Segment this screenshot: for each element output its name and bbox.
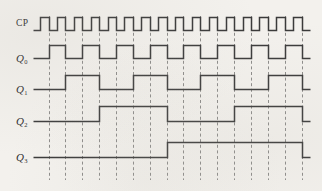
signal-label-text: Q bbox=[16, 151, 24, 163]
signal-label-q2: Q2 bbox=[16, 116, 27, 127]
signal-label-subscript: 1 bbox=[24, 89, 27, 96]
waveform-cp bbox=[34, 18, 311, 31]
gridline-group bbox=[50, 16, 303, 180]
signal-label-q3: Q3 bbox=[16, 152, 27, 163]
signal-label-subscript: 0 bbox=[24, 58, 27, 65]
waveform-q1 bbox=[34, 76, 311, 90]
waveform-q2 bbox=[34, 107, 311, 122]
signal-label-text: Q bbox=[16, 115, 24, 127]
signal-label-text: Q bbox=[16, 52, 24, 64]
waveform-canvas bbox=[0, 0, 322, 191]
timing-diagram-figure: CPQ0Q1Q2Q3 bbox=[0, 0, 322, 191]
signal-label-subscript: 3 bbox=[24, 157, 27, 164]
signal-label-subscript: 2 bbox=[24, 121, 27, 128]
waveform-q3 bbox=[34, 143, 311, 158]
signal-label-text: CP bbox=[16, 18, 28, 28]
signal-label-cp: CP bbox=[16, 19, 28, 29]
waveform-q0 bbox=[34, 46, 311, 59]
signal-label-q1: Q1 bbox=[16, 84, 27, 95]
signal-label-text: Q bbox=[16, 83, 24, 95]
signal-label-q0: Q0 bbox=[16, 53, 27, 64]
